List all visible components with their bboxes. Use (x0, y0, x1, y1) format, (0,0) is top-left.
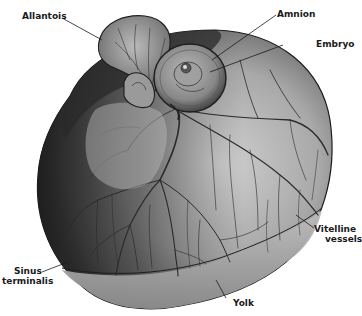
embryo-diagram: Allantois Amnion Embryo Vitelline vessel… (0, 0, 362, 316)
label-sinus-line2: terminalis (2, 276, 53, 286)
leader-allantois (62, 18, 102, 40)
label-sinus-line1: Sinus (2, 266, 53, 276)
label-amnion: Amnion (277, 9, 315, 19)
label-allantois: Allantois (22, 11, 67, 21)
diagram-illustration (0, 0, 362, 316)
label-vitelline-line2: vessels (314, 234, 362, 244)
label-vitelline: Vitelline vessels (314, 224, 362, 244)
label-vitelline-line1: Vitelline (314, 224, 362, 234)
label-embryo: Embryo (316, 39, 354, 49)
label-sinus-terminalis: Sinus terminalis (2, 266, 53, 286)
label-yolk: Yolk (233, 298, 254, 308)
